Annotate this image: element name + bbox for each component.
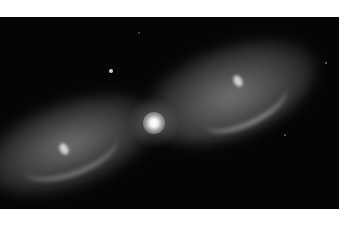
- field-star: [109, 69, 113, 73]
- field-star: [284, 134, 286, 136]
- field-star: [138, 32, 140, 34]
- field-star: [325, 62, 327, 64]
- central-star: [143, 112, 165, 134]
- nebula-photo: [0, 17, 339, 209]
